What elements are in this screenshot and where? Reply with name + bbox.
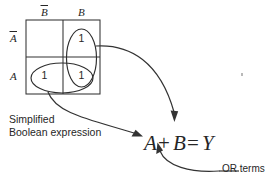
stray-mark bbox=[241, 73, 243, 76]
caption-simplified-boolean-expression: Simplified Boolean expression bbox=[9, 113, 101, 139]
kmap-column-header-not-b: B bbox=[41, 6, 49, 19]
column-header-b-label: B bbox=[78, 6, 85, 18]
expression-operand-b: B bbox=[173, 131, 186, 155]
expression-operator-eq: = bbox=[187, 131, 199, 155]
column-header-not-b-label: B bbox=[41, 6, 48, 18]
kmap-cell-1-0: 1 bbox=[42, 69, 48, 81]
caption-line-1: Simplified bbox=[9, 113, 101, 126]
expression-operator-or: + bbox=[158, 131, 170, 155]
row-header-a-label: A bbox=[9, 70, 17, 82]
kmap-column-header-b: B bbox=[78, 6, 85, 18]
caption-line-2: Boolean expression bbox=[9, 126, 101, 139]
kmap-row-header-not-a: A bbox=[9, 32, 17, 45]
kmap-row-header-a: A bbox=[9, 70, 17, 82]
arrow-b-head bbox=[171, 111, 179, 122]
label-or-terms: OR terms bbox=[222, 162, 265, 175]
kmap-diagram: B B A A 1 1 1 bbox=[0, 0, 273, 194]
arrow-b-group-to-expression bbox=[96, 46, 178, 122]
expression-result: Y bbox=[202, 131, 216, 155]
arrow-b-path bbox=[96, 46, 174, 112]
expression-operand-a: A bbox=[142, 131, 157, 155]
row-header-not-a-label: A bbox=[9, 32, 17, 44]
kmap-cell-1-1: 1 bbox=[79, 69, 85, 81]
kmap-cell-0-1: 1 bbox=[79, 32, 85, 44]
boolean-expression: A + B = Y bbox=[142, 131, 216, 155]
